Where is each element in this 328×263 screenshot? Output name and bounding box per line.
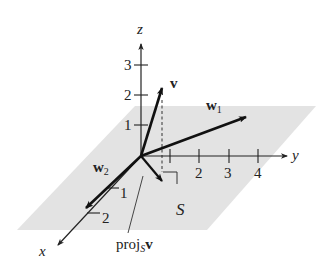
y-tick-2: 2 (195, 165, 203, 181)
svg-text:w1: w1 (206, 97, 222, 115)
w1-subscript: 1 (217, 104, 222, 115)
v-label: v (170, 75, 178, 91)
x-axis-label: x (38, 243, 46, 259)
y-tick-3: 3 (224, 165, 232, 181)
plane-s (17, 106, 316, 230)
y-tick-4: 4 (254, 165, 262, 181)
w2-subscript: 2 (104, 166, 109, 177)
z-tick-3: 3 (124, 57, 132, 73)
z-tick-2: 2 (124, 87, 132, 103)
w1-label: w (206, 97, 217, 113)
z-axis-label: z (136, 21, 143, 37)
y-axis-label: y (290, 147, 299, 163)
plane-label: S (176, 200, 185, 219)
w2-label: w (93, 159, 104, 175)
x-tick-2: 2 (102, 210, 110, 226)
z-tick-1: 1 (124, 117, 132, 133)
proj-label: projSv (116, 236, 153, 254)
projection-diagram: 1 2 3 z 2 3 4 y 1 2 x w2 w1 (0, 0, 328, 263)
x-tick-1: 1 (120, 185, 128, 201)
